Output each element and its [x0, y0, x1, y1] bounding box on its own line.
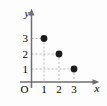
x-tick-label-3: 3	[69, 83, 79, 95]
y-tick-label-2: 2	[17, 48, 28, 60]
y-axis-label: y	[21, 7, 33, 19]
guide-lines-group	[32, 39, 75, 83]
data-point-1-3[interactable]	[41, 35, 48, 42]
data-point-2-2[interactable]	[56, 51, 63, 58]
x-tick-label-2: 2	[54, 83, 64, 95]
x-tick-label-1: 1	[39, 83, 49, 95]
y-tick-label-3: 3	[17, 32, 28, 44]
y-tick-label-1: 1	[17, 63, 28, 75]
x-axis-label: x	[91, 82, 103, 94]
data-point-3-1[interactable]	[71, 66, 78, 73]
y-axis	[29, 9, 35, 89]
scatter-plot-figure: y x O 3 2 1 1 2 3	[0, 0, 107, 106]
origin-label: O	[19, 83, 30, 95]
